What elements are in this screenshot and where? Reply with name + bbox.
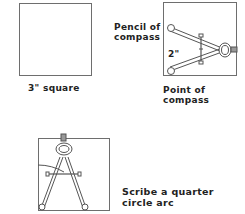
scribe-caption-line2: circle arc [122,197,214,208]
scribe-caption-line1: Scribe a quarter [122,186,214,197]
scribe-caption: Scribe a quarter circle arc [122,186,214,208]
compass-vertical-icon [0,0,245,214]
